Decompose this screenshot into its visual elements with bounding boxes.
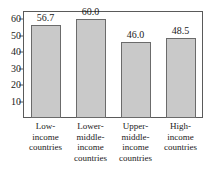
y-tick-label: 20 (3, 80, 21, 90)
x-category-label-line: income (158, 132, 203, 143)
x-category-label: High-incomecountries (158, 121, 203, 153)
x-category-label-line: income (113, 142, 158, 153)
bar-chart: 102030405060 56.760.046.048.5 Low-income… (0, 0, 208, 174)
bar (31, 25, 61, 118)
x-category-label-line: countries (158, 142, 203, 153)
bar-value-label: 48.5 (172, 26, 190, 36)
x-category-label-line: countries (23, 142, 68, 153)
x-axis-category-labels: Low-incomecountriesLower-middle-incomeco… (23, 121, 203, 174)
bar (121, 42, 151, 118)
bar-group: 46.0 (113, 11, 158, 118)
bar-group: 60.0 (68, 11, 113, 118)
bar-group: 56.7 (23, 11, 68, 118)
bar-value-label: 56.7 (37, 13, 55, 23)
cropped-chart-title (22, 0, 202, 3)
x-category-label-line: middle- (68, 132, 113, 143)
y-tick-label: 10 (3, 97, 21, 107)
x-category-label-line: countries (68, 153, 113, 164)
x-category-label-line: countries (113, 153, 158, 164)
bar-value-label: 46.0 (127, 30, 145, 40)
x-category-label-line: Lower- (68, 121, 113, 132)
y-axis-tick-labels: 102030405060 (0, 11, 21, 118)
y-tick-label: 60 (3, 14, 21, 24)
x-category-label-line: income (68, 142, 113, 153)
x-category-label-line: middle- (113, 132, 158, 143)
x-category-label: Lower-middle-incomecountries (68, 121, 113, 163)
x-category-label-line: Upper- (113, 121, 158, 132)
y-tick-label: 40 (3, 47, 21, 57)
y-tick-label: 50 (3, 31, 21, 41)
x-category-label-line: Low- (23, 121, 68, 132)
bar (76, 19, 106, 118)
x-category-label-line: income (23, 132, 68, 143)
bar (166, 38, 196, 118)
x-category-label: Upper-middle-incomecountries (113, 121, 158, 163)
x-category-label: Low-incomecountries (23, 121, 68, 153)
bars-container: 56.760.046.048.5 (23, 11, 203, 118)
x-category-label-line: High- (158, 121, 203, 132)
bar-value-label: 60.0 (82, 7, 100, 17)
y-tick-label: 30 (3, 64, 21, 74)
bar-group: 48.5 (158, 11, 203, 118)
